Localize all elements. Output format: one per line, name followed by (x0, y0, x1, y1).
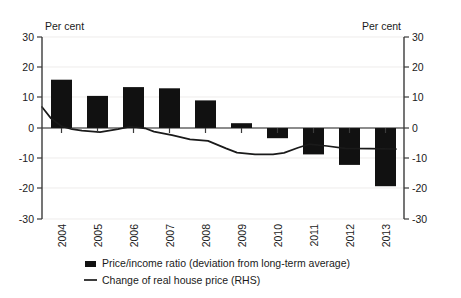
bar-2013 (375, 128, 396, 186)
x-label-2006: 2006 (128, 224, 140, 248)
legend-label-change-real-house-price: Change of real house price (RHS) (102, 274, 260, 286)
bar-2008 (195, 100, 216, 128)
left-tick-label-30: 30 (22, 31, 34, 43)
x-label-2012: 2012 (344, 224, 356, 248)
x-axis-labels: 2004 2005 2006 2007 2008 2009 2010 2011 … (56, 224, 392, 248)
right-tick-label-minus-30: -30 (412, 213, 427, 225)
left-tick-label-10: 10 (22, 91, 34, 103)
x-label-2005: 2005 (92, 224, 104, 248)
x-label-2010: 2010 (272, 224, 284, 248)
left-tick-label-minus-10: -10 (19, 152, 34, 164)
chart-container: 30 20 10 0 -10 -20 -30 Per cent 30 20 10… (0, 0, 461, 298)
bar-2005 (87, 96, 108, 128)
left-tick-label-minus-30: -30 (19, 213, 34, 225)
right-tick-label-0: 0 (412, 122, 418, 134)
house-price-chart: 30 20 10 0 -10 -20 -30 Per cent 30 20 10… (0, 0, 461, 298)
left-axis-title: Per cent (45, 20, 84, 32)
x-label-2004: 2004 (56, 224, 68, 248)
bar-2006 (123, 87, 144, 128)
x-label-2008: 2008 (200, 224, 212, 248)
left-tick-label-minus-20: -20 (19, 182, 34, 194)
right-tick-label-minus-10: -10 (412, 152, 427, 164)
x-label-2013: 2013 (380, 224, 392, 248)
right-tick-label-10: 10 (412, 91, 424, 103)
chart-legend: Price/income ratio (deviation from long-… (84, 257, 350, 286)
left-tick-label-0: 0 (28, 122, 34, 134)
right-tick-label-minus-20: -20 (412, 182, 427, 194)
right-tick-label-30: 30 (412, 31, 424, 43)
x-label-2011: 2011 (308, 224, 320, 247)
left-tick-label-20: 20 (22, 61, 34, 73)
x-label-2007: 2007 (164, 224, 176, 248)
bar-2012 (339, 128, 360, 165)
legend-label-price-income-ratio: Price/income ratio (deviation from long-… (102, 257, 350, 269)
right-tick-label-20: 20 (412, 61, 424, 73)
bar-2009 (231, 123, 252, 128)
bar-2007 (159, 88, 180, 128)
legend-bar-swatch-icon (85, 261, 96, 267)
right-axis-title: Per cent (362, 20, 401, 32)
x-label-2009: 2009 (236, 224, 248, 248)
